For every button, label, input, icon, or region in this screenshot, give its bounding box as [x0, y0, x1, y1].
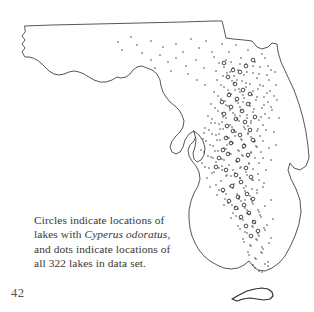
- lake-dot-marker: [249, 83, 250, 84]
- lake-dot-marker: [249, 195, 250, 196]
- lake-dot-marker: [230, 61, 231, 62]
- lake-dot-marker: [216, 139, 217, 140]
- lake-dot-marker: [243, 187, 244, 188]
- lake-dot-marker: [211, 172, 212, 173]
- lake-dot-marker: [239, 106, 240, 107]
- lake-dot-marker: [136, 44, 137, 45]
- lake-dot-marker: [260, 216, 261, 217]
- lake-dot-marker: [252, 90, 253, 91]
- lake-dot-marker: [203, 67, 204, 68]
- lake-dot-marker: [235, 131, 236, 132]
- lake-dot-marker: [274, 71, 275, 72]
- lake-dot-marker: [251, 201, 252, 202]
- lake-dot-marker: [182, 51, 183, 52]
- lake-dot-marker: [270, 159, 271, 160]
- lake-dot-marker: [254, 257, 255, 258]
- lake-dot-marker: [218, 133, 219, 134]
- lake-dot-marker: [264, 113, 265, 114]
- lake-dot-marker: [264, 229, 265, 230]
- lake-dot-marker: [220, 180, 221, 181]
- lake-dot-marker: [234, 114, 235, 115]
- lake-dot-marker: [204, 127, 205, 128]
- lake-dot-marker: [261, 53, 262, 54]
- lake-dot-marker: [256, 130, 257, 131]
- lake-dot-marker: [264, 205, 265, 206]
- lake-dot-marker: [237, 102, 238, 103]
- lake-dot-marker: [222, 75, 223, 76]
- lake-dot-marker: [205, 140, 206, 141]
- lake-dot-marker: [273, 131, 274, 132]
- lake-dot-marker: [252, 168, 253, 169]
- lake-dot-marker: [141, 52, 142, 53]
- lake-dot-marker: [162, 46, 163, 47]
- lake-dot-marker: [267, 265, 268, 266]
- lake-dot-marker: [235, 44, 236, 45]
- caption-line-4: all 322 lakes in data set.: [34, 256, 234, 270]
- caption-line-2: lakes with Cyperus odoratus,: [34, 227, 234, 241]
- lake-dot-marker: [268, 117, 269, 118]
- lake-dot-marker: [215, 184, 216, 185]
- lake-dot-marker: [257, 209, 258, 210]
- lake-dot-marker: [214, 122, 215, 123]
- lake-dot-marker: [228, 137, 229, 138]
- lake-dot-marker: [226, 144, 227, 145]
- lake-dot-marker: [239, 63, 240, 64]
- lake-dot-marker: [258, 73, 259, 74]
- lake-dot-marker: [250, 136, 251, 137]
- lake-dot-marker: [215, 134, 216, 135]
- lake-dot-marker: [195, 59, 196, 60]
- lake-dot-marker: [262, 157, 263, 158]
- lake-dot-marker: [261, 246, 262, 247]
- page-number: 42: [11, 286, 24, 301]
- lake-dot-marker: [263, 182, 264, 183]
- lake-dot-marker: [207, 155, 208, 156]
- lake-dot-marker: [223, 66, 224, 67]
- lake-dot-marker: [254, 157, 255, 158]
- lake-dot-marker: [258, 119, 259, 120]
- lake-dot-marker: [251, 188, 252, 189]
- lake-dot-marker: [246, 71, 247, 72]
- lake-dot-marker: [207, 115, 208, 116]
- lake-dot-marker: [217, 95, 218, 96]
- lake-dot-marker: [241, 80, 242, 81]
- lake-dot-marker: [216, 79, 217, 80]
- lake-dot-marker: [220, 84, 221, 85]
- lake-dot-marker: [121, 49, 122, 50]
- lake-dot-marker: [221, 158, 222, 159]
- lake-dot-marker: [218, 123, 219, 124]
- lake-dot-marker: [211, 51, 212, 52]
- lake-dot-marker: [239, 228, 240, 229]
- lake-dot-marker: [221, 43, 222, 44]
- lake-dot-marker: [262, 186, 263, 187]
- lake-dot-marker: [150, 59, 151, 60]
- lake-dot-marker: [237, 149, 238, 150]
- lake-dot-marker: [247, 49, 248, 50]
- lake-dot-marker: [221, 169, 222, 170]
- lake-dot-marker: [246, 117, 247, 118]
- lake-dot-marker: [264, 57, 265, 58]
- lake-dot-marker: [150, 40, 151, 41]
- lake-dot-marker: [234, 89, 235, 90]
- lake-dot-marker: [228, 164, 229, 165]
- lake-dot-marker: [256, 77, 257, 78]
- lake-dot-marker: [244, 231, 245, 232]
- lake-dot-marker: [275, 144, 276, 145]
- lake-dot-marker: [244, 190, 245, 191]
- lake-dot-marker: [250, 120, 251, 121]
- lake-dot-marker: [256, 192, 257, 193]
- lake-dot-marker: [187, 73, 188, 74]
- lake-dot-marker: [252, 65, 253, 66]
- lake-dot-marker: [223, 86, 224, 87]
- caption-line-2-suffix: ,: [167, 228, 170, 240]
- lake-dot-marker: [234, 135, 235, 136]
- lake-dot-marker: [239, 91, 240, 92]
- lake-dot-marker: [247, 251, 248, 252]
- lake-dot-marker: [258, 162, 259, 163]
- lake-dot-marker: [267, 65, 268, 66]
- lake-dot-marker: [242, 219, 243, 220]
- lake-dot-marker: [272, 218, 273, 219]
- lake-dot-marker: [275, 84, 276, 85]
- lake-dot-marker: [239, 177, 240, 178]
- lake-dot-marker: [238, 120, 239, 121]
- lake-dot-marker: [210, 156, 211, 157]
